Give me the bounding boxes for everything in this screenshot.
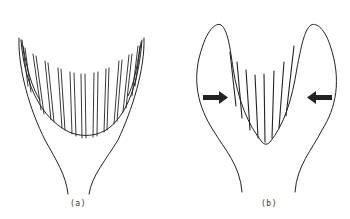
panel-b [197,24,337,192]
diagram-figure [0,0,350,219]
arrow-right-icon [203,91,228,104]
panel-b-label: (b) [261,199,277,208]
panel-b-basin-bottom [262,142,270,144]
panel-a-lamellae [22,40,141,138]
compression-arrows [203,91,332,104]
arrow-left-icon [307,91,332,104]
panel-b-left-wall [197,24,262,192]
panel-a [19,38,144,194]
panel-a-label: (a) [70,199,86,208]
panel-b-lamellae [230,46,294,142]
